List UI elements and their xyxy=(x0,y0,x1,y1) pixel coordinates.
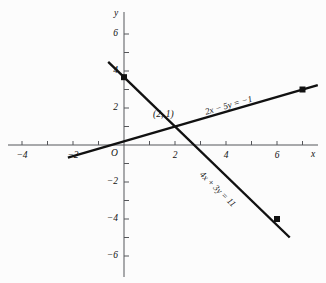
y-tick-label: −2 xyxy=(100,177,118,187)
x-tick-label: 2 xyxy=(166,151,184,161)
x-tick-label: −4 xyxy=(13,151,31,161)
y-axis-label: y xyxy=(114,9,118,19)
x-tick-label: −2 xyxy=(64,151,82,161)
y-tick-label: 6 xyxy=(100,29,118,39)
y-tick-label: −4 xyxy=(100,214,118,224)
graph-canvas xyxy=(0,0,326,283)
y-tick-label: −6 xyxy=(100,251,118,261)
x-axis-ticks xyxy=(22,141,303,145)
plotted-lines xyxy=(68,62,318,238)
x-tick-label: 6 xyxy=(268,151,286,161)
graph-figure: x y O −4−2246642−2−4−6 (2, 1) 2x − 5y = … xyxy=(0,0,326,283)
x-axis-label: x xyxy=(311,150,315,160)
x-tick-label: 4 xyxy=(217,151,235,161)
y-tick-label: 4 xyxy=(100,66,118,76)
intersection-point-label: (2, 1) xyxy=(153,110,174,120)
origin-label: O xyxy=(111,149,118,159)
y-tick-label: 2 xyxy=(100,103,118,113)
